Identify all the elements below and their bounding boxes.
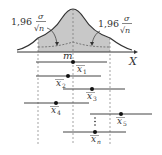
svg-text:x: x: [117, 116, 122, 126]
svg-text:σ: σ: [124, 14, 130, 23]
svg-text:1,96: 1,96: [11, 16, 32, 27]
svg-text:x: x: [87, 91, 92, 101]
svg-text:√n: √n: [34, 24, 44, 33]
svg-text:σ: σ: [38, 12, 44, 21]
ellipsis-dots: [94, 117, 96, 126]
svg-text:5: 5: [123, 120, 127, 127]
svg-text:x: x: [77, 64, 82, 74]
svg-text:1,96: 1,96: [98, 18, 119, 29]
mean-label: m: [63, 50, 72, 61]
interval-1: x 1: [36, 60, 107, 75]
svg-text:x: x: [51, 105, 56, 115]
svg-text:x: x: [91, 134, 96, 144]
interval-3: x 3: [63, 87, 125, 102]
svg-text:x: x: [56, 78, 61, 88]
x-axis-label: X: [128, 55, 138, 68]
interval-2: x 2: [36, 74, 101, 89]
svg-text:2: 2: [62, 82, 66, 89]
svg-text:n: n: [97, 138, 101, 145]
x-axis-arrow: [134, 50, 138, 54]
interval-n: x n: [63, 130, 126, 145]
shaded-area: [38, 9, 110, 52]
svg-text:1: 1: [83, 68, 87, 75]
interval-5: x 5: [90, 112, 152, 127]
svg-text:4: 4: [57, 109, 61, 116]
svg-text:√n: √n: [120, 26, 130, 35]
svg-text:3: 3: [93, 95, 97, 102]
interval-4: x 4: [24, 101, 89, 116]
confidence-interval-diagram: X m 1,96 σ √n 1,96 σ √n x 1 x 2: [0, 0, 162, 155]
